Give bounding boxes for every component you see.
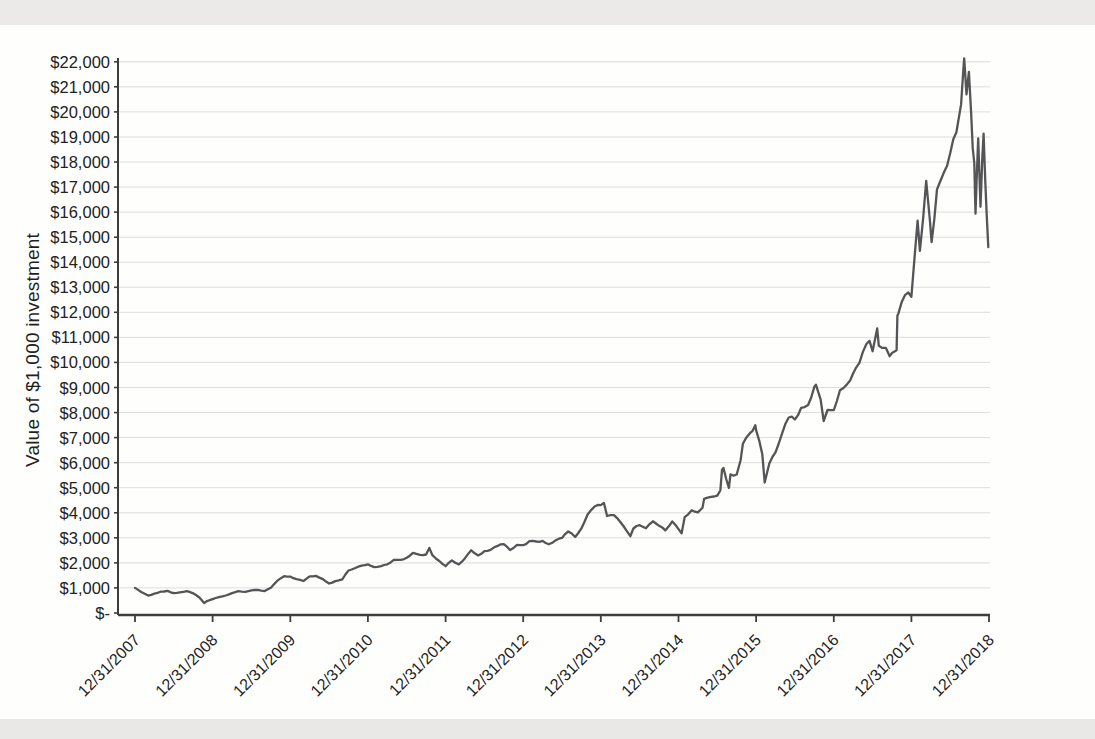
y-tick-label: $10,000 — [50, 353, 110, 371]
y-tick-label: $4,000 — [60, 504, 110, 522]
y-tick-label: $12,000 — [50, 303, 110, 321]
y-tick-label: $14,000 — [50, 253, 110, 271]
x-tick-label: 12/31/2017 — [851, 631, 920, 700]
y-tick-label: $3,000 — [60, 529, 110, 547]
y-tick-label: $8,000 — [60, 404, 110, 422]
y-tick-label: $13,000 — [50, 278, 110, 296]
y-tick-label: $18,000 — [50, 153, 110, 171]
y-tick-label: $16,000 — [50, 203, 110, 221]
x-tick-label: 12/31/2014 — [618, 631, 687, 700]
y-tick-label: $17,000 — [50, 178, 110, 196]
x-tick-label: 12/31/2015 — [696, 631, 765, 700]
x-tick-label: 12/31/2013 — [540, 631, 609, 700]
y-tick-label: $22,000 — [50, 53, 110, 71]
y-tick-label: $5,000 — [60, 479, 110, 497]
y-tick-label: $19,000 — [50, 128, 110, 146]
y-tick-label: $7,000 — [60, 429, 110, 447]
x-tick-label: 12/31/2007 — [74, 631, 143, 700]
series-line — [135, 58, 988, 603]
scanned-page: $22,000$21,000$20,000$19,000$18,000$17,0… — [0, 0, 1095, 739]
y-tick-label: $6,000 — [60, 454, 110, 472]
x-tick-label: 12/31/2012 — [463, 631, 532, 700]
x-tick-label: 12/31/2008 — [152, 631, 221, 700]
y-tick-label: $20,000 — [50, 103, 110, 121]
x-tick-label: 12/31/2018 — [928, 631, 997, 700]
y-tick-label: $15,000 — [50, 228, 110, 246]
x-tick-label: 12/31/2016 — [773, 631, 842, 700]
x-tick-label: 12/31/2011 — [386, 631, 454, 699]
y-tick-label: $11,000 — [52, 328, 110, 346]
y-tick-label: $- — [95, 604, 110, 622]
x-tick-label: 12/31/2009 — [230, 631, 299, 700]
y-tick-label: $9,000 — [60, 379, 110, 397]
y-tick-label: $2,000 — [60, 554, 110, 572]
investment-growth-line-chart: $22,000$21,000$20,000$19,000$18,000$17,0… — [0, 0, 1095, 739]
y-tick-label: $1,000 — [60, 579, 110, 597]
y-tick-label: $21,000 — [50, 78, 110, 96]
y-axis-title: Value of $1,000 investment — [22, 233, 44, 467]
x-tick-label: 12/31/2010 — [307, 631, 376, 700]
